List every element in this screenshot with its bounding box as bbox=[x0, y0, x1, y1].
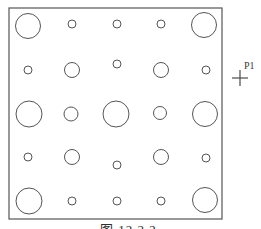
hole-circle bbox=[103, 101, 129, 127]
hole-circle bbox=[157, 197, 165, 205]
hole-circle bbox=[113, 20, 121, 28]
hole-circle bbox=[16, 101, 42, 127]
hole-circle bbox=[65, 150, 80, 165]
hole-circle bbox=[192, 13, 217, 38]
hole-circle bbox=[68, 20, 76, 28]
hole-circle bbox=[154, 150, 169, 165]
hole-circle bbox=[16, 188, 42, 214]
hole-circle bbox=[113, 197, 121, 205]
hole-circle bbox=[113, 60, 121, 68]
point-marker: P1 bbox=[232, 60, 255, 86]
hole-circle bbox=[202, 66, 210, 74]
hole-pattern-diagram: P1 图 12.2.2 bbox=[0, 0, 261, 229]
marker-label: P1 bbox=[244, 60, 255, 71]
plate-outline bbox=[9, 8, 222, 219]
holes-group bbox=[16, 13, 218, 215]
hole-circle bbox=[64, 107, 78, 121]
drawing-canvas: P1 图 12.2.2 bbox=[0, 0, 261, 229]
figure-caption: 图 12.2.2 bbox=[100, 222, 157, 229]
hole-circle bbox=[16, 14, 41, 39]
hole-circle bbox=[24, 66, 32, 74]
hole-circle bbox=[202, 154, 210, 162]
hole-circle bbox=[113, 161, 121, 169]
hole-circle bbox=[193, 188, 218, 213]
hole-circle bbox=[65, 63, 80, 78]
hole-circle bbox=[24, 153, 32, 161]
hole-circle bbox=[193, 102, 218, 127]
hole-circle bbox=[154, 63, 169, 78]
hole-circle bbox=[157, 20, 165, 28]
hole-circle bbox=[154, 107, 167, 120]
hole-circle bbox=[68, 197, 76, 205]
